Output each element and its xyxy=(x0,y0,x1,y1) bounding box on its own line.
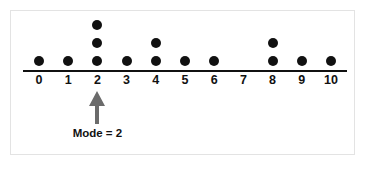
data-dot xyxy=(209,56,219,66)
tick-label-10: 10 xyxy=(324,73,338,87)
data-dot xyxy=(326,56,336,66)
tick-label-6: 6 xyxy=(211,73,218,87)
data-dot xyxy=(268,56,278,66)
tick-label-2: 2 xyxy=(94,73,101,87)
data-dot xyxy=(63,56,73,66)
data-dot xyxy=(34,56,44,66)
tick-label-3: 3 xyxy=(123,73,130,87)
tick-label-0: 0 xyxy=(36,73,43,87)
up-arrow-icon xyxy=(86,90,108,128)
data-dot xyxy=(180,56,190,66)
data-dot xyxy=(151,56,161,66)
data-dot xyxy=(268,38,278,48)
data-dot xyxy=(122,56,132,66)
tick-label-1: 1 xyxy=(65,73,72,87)
dot-plot-figure-panel: 012345678910 Mode = 2 xyxy=(10,10,355,155)
tick-label-9: 9 xyxy=(298,73,305,87)
dot-plot-area: 012345678910 Mode = 2 xyxy=(11,11,356,156)
data-dot xyxy=(92,56,102,66)
tick-label-8: 8 xyxy=(269,73,276,87)
data-dot xyxy=(92,20,102,30)
tick-label-5: 5 xyxy=(182,73,189,87)
tick-label-7: 7 xyxy=(240,73,247,87)
data-dot xyxy=(92,38,102,48)
number-line-axis xyxy=(23,70,347,72)
mode-annotation-label: Mode = 2 xyxy=(73,127,123,140)
tick-label-4: 4 xyxy=(152,73,159,87)
data-dot xyxy=(151,38,161,48)
data-dot xyxy=(297,56,307,66)
